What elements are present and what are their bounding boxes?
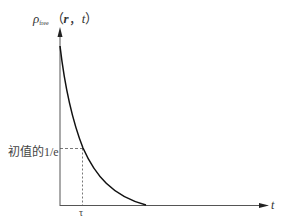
level-label: 初值的1/e bbox=[8, 142, 59, 160]
diagram-canvas bbox=[0, 0, 284, 218]
y-axis-arrow-icon bbox=[58, 27, 63, 37]
open-paren: （ bbox=[51, 11, 64, 26]
decay-curve bbox=[60, 46, 146, 205]
tau-label: τ bbox=[79, 207, 83, 218]
x-axis-label: t bbox=[271, 198, 274, 213]
close-paren: ） bbox=[85, 11, 98, 26]
decay-diagram: ρfree（r，t） 初值的1/e τ t bbox=[0, 0, 284, 218]
x-axis-arrow-icon bbox=[259, 203, 269, 208]
comma: ， bbox=[69, 11, 82, 26]
free-subscript: free bbox=[39, 20, 48, 26]
y-axis-label: ρfree（r，t） bbox=[33, 8, 98, 27]
